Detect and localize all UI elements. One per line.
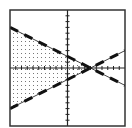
axes [10,10,125,126]
graph-canvas [0,0,132,128]
